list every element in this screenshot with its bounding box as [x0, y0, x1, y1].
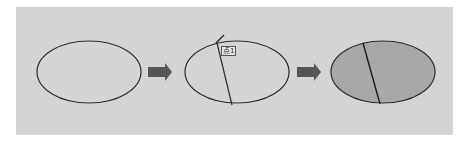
- ellipse-step-3: [331, 41, 435, 103]
- ellipse-step-1: [37, 41, 141, 103]
- ellipse-step-2: [185, 41, 289, 103]
- diagram-canvas: [0, 0, 469, 142]
- point-label: 点1: [221, 46, 236, 56]
- arrow-icon-1: [148, 63, 172, 81]
- arrow-icon-2: [297, 63, 321, 81]
